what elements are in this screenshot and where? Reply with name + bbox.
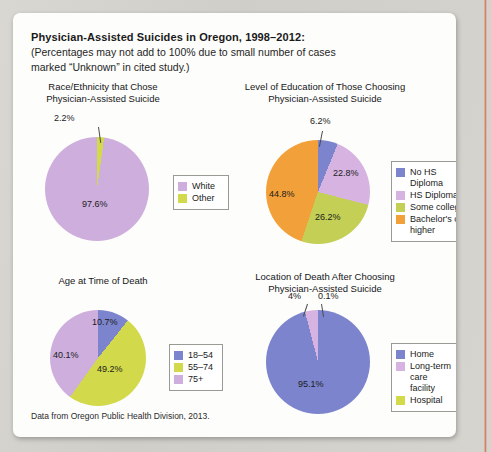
legend-row[interactable]: Bachelor's or higher [396,214,456,236]
slice-label-bachelors: 44.8% [269,189,295,199]
slice-label-hs-diploma: 22.8% [333,168,359,178]
legend-label: Bachelor's or higher [410,214,456,236]
legend-row[interactable]: HS Diploma [396,190,456,201]
slice-label-no-hs-diploma: 6.2% [310,116,331,126]
slice-label-white: 97.6% [82,199,108,209]
legend-swatch-icon [396,215,405,224]
legend-swatch-icon [178,182,187,191]
legend-label: Hospital [410,395,443,406]
chart-title-education: Level of Education of Those Choosing Phy… [220,81,430,104]
legend-swatch-icon [178,194,187,203]
page-edge-artifact [484,0,487,452]
legend-label: No HS Diploma [410,167,456,189]
legend-row[interactable]: No HS Diploma [396,167,456,189]
legend-swatch-icon [174,363,183,372]
legend-row[interactable]: Other [178,193,222,204]
legend-swatch-icon [396,168,405,177]
pie-chart-location [266,310,370,414]
legend-education[interactable]: No HS DiplomaHS DiplomaSome collegeBache… [391,161,456,242]
legend-swatch-icon [396,191,405,200]
legend-label: 75+ [188,374,203,385]
slice-label-55-74: 49.2% [97,364,123,374]
legend-label: White [192,181,215,192]
legend-label: Other [192,193,215,204]
legend-age[interactable]: 18–5455–7475+ [169,344,223,391]
slice-label-18-54: 10.7% [92,317,118,327]
page-subtitle-line1: (Percentages may not add to 100% due to … [31,45,441,59]
legend-swatch-icon [174,375,183,384]
slice-label-other: 2.2% [54,113,75,123]
legend-row[interactable]: 18–54 [174,350,216,361]
slice-label-75-plus: 40.1% [53,350,79,360]
legend-swatch-icon [396,350,405,359]
page-subtitle-line2: marked “Unknown” in cited study.) [31,60,441,74]
slice-label-home: 95.1% [298,379,324,389]
slice-label-hospital: 0.1% [318,291,339,301]
legend-race-ethnicity[interactable]: WhiteOther [173,175,229,210]
slice-label-long-term-care: 4% [288,291,301,301]
legend-label: Long-term care facility [410,361,456,394]
page-title: Physician-Assisted Suicides in Oregon, 1… [31,30,441,44]
legend-row[interactable]: 75+ [174,374,216,385]
slice-label-some-college: 26.2% [315,212,341,222]
legend-label: Some college [410,202,456,213]
legend-row[interactable]: 55–74 [174,362,216,373]
legend-label: Home [410,349,434,360]
pie-chart-race-ethnicity [45,137,149,241]
legend-label: 18–54 [188,350,213,361]
legend-swatch-icon [396,362,405,371]
figure-title-block: Physician-Assisted Suicides in Oregon, 1… [31,30,441,74]
legend-label: 55–74 [188,362,213,373]
figure-card: Physician-Assisted Suicides in Oregon, 1… [13,13,456,437]
legend-row[interactable]: Long-term care facility [396,361,456,394]
legend-label: HS Diploma [410,190,456,201]
legend-swatch-icon [174,351,183,360]
legend-row[interactable]: White [178,181,222,192]
legend-row[interactable]: Some college [396,202,456,213]
legend-swatch-icon [396,396,405,405]
legend-swatch-icon [396,203,405,212]
legend-row[interactable]: Home [396,349,456,360]
legend-location[interactable]: HomeLong-term care facilityHospital [391,343,456,412]
legend-row[interactable]: Hospital [396,395,456,406]
source-caption: Data from Oregon Public Health Division,… [31,411,210,421]
chart-title-age: Age at Time of Death [13,275,208,287]
page-background: Physician-Assisted Suicides in Oregon, 1… [0,0,491,452]
chart-title-race-ethnicity: Race/Ethnicity that Chose Physician-Assi… [13,81,208,104]
